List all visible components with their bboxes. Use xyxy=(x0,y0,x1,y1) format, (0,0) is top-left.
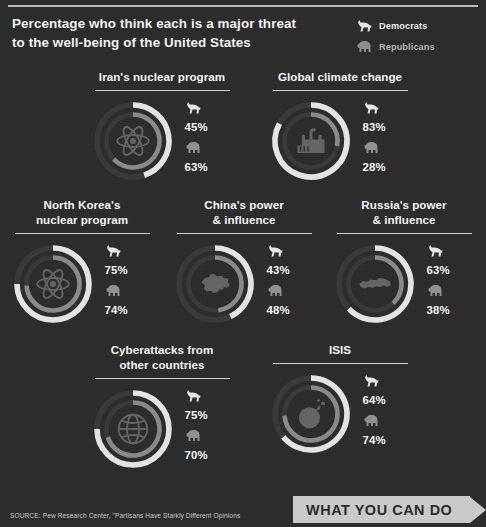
donkey-icon xyxy=(105,244,122,258)
chart-body: 64% 74% xyxy=(256,371,424,457)
chart-title: Cyberattacks from other countries xyxy=(78,343,246,373)
chart-title-line-1: Iran's nuclear program xyxy=(78,70,246,85)
infographic-page: Percentage who think each is a major thr… xyxy=(0,0,486,527)
donut-chart xyxy=(10,241,96,327)
factory-icon xyxy=(293,123,329,159)
donkey-icon xyxy=(185,101,202,115)
donkey-icon xyxy=(363,101,380,115)
value-republicans: 28% xyxy=(363,141,413,175)
chart-title: Russia's power & influence xyxy=(320,198,486,228)
cta-body[interactable]: WHAT YOU CAN DO xyxy=(293,496,470,523)
chart-cyberattacks: Cyberattacks from other countries 75% 70… xyxy=(78,343,246,472)
value-democrats: 63% xyxy=(427,244,477,278)
chart-title-line-1: China's power xyxy=(160,198,328,213)
chart-title-divider xyxy=(273,363,408,365)
chart-title-divider xyxy=(177,233,312,235)
chart-body: 45% 63% xyxy=(78,98,246,184)
chart-title-line-1: Global climate change xyxy=(256,70,424,85)
elephant-icon xyxy=(185,141,202,155)
elephant-icon xyxy=(363,141,380,155)
republican-percentage: 48% xyxy=(267,304,290,316)
democrat-percentage: 83% xyxy=(363,121,386,133)
chart-title: ISIS xyxy=(256,343,424,358)
chart-title-line-1: ISIS xyxy=(256,343,424,358)
value-list: 45% 63% xyxy=(185,101,235,181)
value-list: 75% 74% xyxy=(105,244,155,324)
chart-north-korea-nuclear-program: North Korea's nuclear program 75% 74% xyxy=(0,198,166,327)
value-republicans: 74% xyxy=(363,414,413,448)
chart-china-power-influence: China's power & influence 43% 48% xyxy=(160,198,328,327)
value-republicans: 70% xyxy=(185,429,235,463)
chart-title-line-2: other countries xyxy=(78,358,246,373)
elephant-icon xyxy=(267,284,284,298)
chart-title-line-2: nuclear program xyxy=(0,213,166,228)
chart-title-line-2: & influence xyxy=(320,213,486,228)
chart-title-divider xyxy=(15,233,150,235)
chart-title-divider xyxy=(337,233,472,235)
chart-title: Global climate change xyxy=(256,70,424,85)
republican-percentage: 28% xyxy=(363,161,386,173)
donut-chart xyxy=(172,241,258,327)
donkey-icon xyxy=(185,389,202,403)
donut-chart xyxy=(332,241,418,327)
elephant-icon xyxy=(356,40,373,54)
value-democrats: 64% xyxy=(363,374,413,408)
chart-title-divider xyxy=(273,90,408,92)
page-title: Percentage who think each is a major thr… xyxy=(12,14,322,52)
chart-body: 83% 28% xyxy=(256,98,424,184)
elephant-icon xyxy=(363,414,380,428)
donut-chart xyxy=(90,386,176,472)
donkey-icon xyxy=(267,244,284,258)
chart-title-divider xyxy=(95,378,230,380)
globe-icon xyxy=(115,411,151,447)
chart-global-climate-change: Global climate change 83% 28% xyxy=(256,70,424,184)
republican-percentage: 38% xyxy=(427,304,450,316)
donkey-icon xyxy=(356,19,373,33)
value-list: 75% 70% xyxy=(185,389,235,469)
chart-title-line-1: North Korea's xyxy=(0,198,166,213)
democrat-percentage: 43% xyxy=(267,264,290,276)
chart-russia-power-influence: Russia's power & influence 63% 38% xyxy=(320,198,486,327)
atom-icon xyxy=(35,266,71,302)
donkey-icon xyxy=(363,374,380,388)
chart-title-line-2: & influence xyxy=(160,213,328,228)
legend-item-democrats: Democrats xyxy=(356,17,476,34)
republican-percentage: 74% xyxy=(105,304,128,316)
value-republicans: 38% xyxy=(427,284,477,318)
donut-chart xyxy=(90,98,176,184)
chart-body: 63% 38% xyxy=(320,241,486,327)
what-you-can-do-button[interactable]: WHAT YOU CAN DO xyxy=(293,496,486,523)
republican-percentage: 74% xyxy=(363,434,386,446)
russia-map-icon xyxy=(357,266,393,302)
value-democrats: 75% xyxy=(185,389,235,423)
cta-label: WHAT YOU CAN DO xyxy=(306,501,452,519)
chart-title-divider xyxy=(95,90,230,92)
value-democrats: 75% xyxy=(105,244,155,278)
bomb-icon xyxy=(293,396,329,432)
legend-item-republicans: Republicans xyxy=(356,38,476,55)
chart-title: China's power & influence xyxy=(160,198,328,228)
democrat-percentage: 75% xyxy=(185,409,208,421)
democrat-percentage: 75% xyxy=(105,264,128,276)
value-list: 64% 74% xyxy=(363,374,413,454)
chart-body: 43% 48% xyxy=(160,241,328,327)
value-list: 63% 38% xyxy=(427,244,477,324)
page-title-line-1: Percentage who think each is a major thr… xyxy=(12,14,322,33)
chart-title: Iran's nuclear program xyxy=(78,70,246,85)
chart-body: 75% 74% xyxy=(0,241,166,327)
democrat-percentage: 45% xyxy=(185,121,208,133)
chart-title: North Korea's nuclear program xyxy=(0,198,166,228)
arrow-right-icon xyxy=(470,497,486,523)
source-note: SOURCE: Pew Research Center, "Partisans … xyxy=(10,512,240,519)
value-republicans: 74% xyxy=(105,284,155,318)
legend-label-democrats: Democrats xyxy=(379,21,427,31)
elephant-icon xyxy=(105,284,122,298)
donkey-icon xyxy=(427,244,444,258)
value-list: 43% 48% xyxy=(267,244,317,324)
legend: Democrats Republicans xyxy=(356,17,476,59)
value-democrats: 83% xyxy=(363,101,413,135)
donut-chart xyxy=(268,371,354,457)
value-democrats: 43% xyxy=(267,244,317,278)
republican-percentage: 63% xyxy=(185,161,208,173)
top-divider xyxy=(8,5,478,7)
